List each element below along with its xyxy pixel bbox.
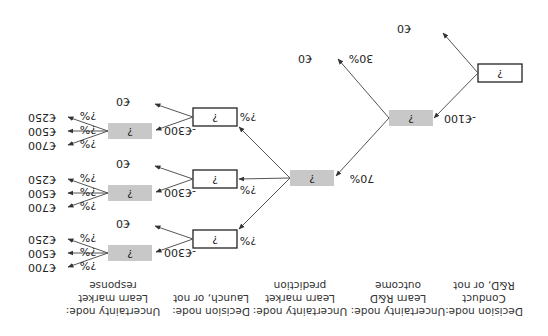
uncertainty-node-market-response-0-label: ? (127, 125, 133, 138)
edge-no-launch-1 (155, 166, 193, 179)
payoff-no-rd: €0 (397, 22, 411, 35)
payoff-response-2-2: €700 (28, 261, 56, 274)
prob-rd-success: 70% (350, 172, 374, 185)
payoff-response-2-0: €250 (28, 233, 56, 246)
uncertainty-node-market-response-2-label: ? (127, 247, 133, 260)
payoff-response-0-1: €500 (28, 125, 56, 138)
decision-node-conduct-rd-label: ? (497, 67, 503, 80)
column-header-2-line-0: Uncertainty node: (253, 306, 347, 318)
edge-rd-success (336, 118, 389, 176)
payoff-response-0-0: €250 (28, 111, 56, 124)
decision-node-launch-1-label: ? (212, 173, 218, 186)
column-header-1-line-0: Uncertainty node: (351, 306, 445, 318)
column-header-0-line-0: Decision node: (445, 306, 523, 318)
prob-response-1-2: ?% (80, 199, 96, 212)
decision-tree: ?€0-€100?30%€070%??%?€0-€300??%€250?%€50… (0, 0, 548, 336)
uncertainty-node-rd-outcome-label: ? (408, 112, 414, 125)
prob-response-1-0: ?% (80, 171, 96, 184)
column-header-3-line-1: Launch, or not (173, 293, 249, 305)
uncertainty-node-market-response-1-label: ? (127, 187, 133, 200)
column-header-1-line-1: Learn R&D (370, 293, 426, 305)
payoff-no-launch-1: €0 (116, 157, 130, 170)
payoff-no-launch-0: €0 (116, 95, 130, 108)
column-header-1-line-2: outcome (375, 280, 421, 292)
edge-no-rd (443, 33, 478, 73)
prob-prediction-1: ?% (240, 183, 256, 196)
cost-launch-2: -€300 (164, 246, 196, 259)
edge-rd (434, 73, 478, 118)
column-header-0-line-1: Conduct (462, 293, 506, 305)
column-header-4-line-0: Uncertainty node: (66, 306, 160, 318)
prob-prediction-2: ?% (240, 234, 256, 247)
decision-node-launch-2-label: ? (212, 233, 218, 246)
payoff-response-0-2: €700 (28, 139, 56, 152)
payoff-response-1-1: €500 (28, 187, 56, 200)
edge-prediction-1 (239, 178, 290, 179)
prob-response-0-0: ?% (80, 109, 96, 122)
decision-node-launch-0-label: ? (212, 111, 218, 124)
prob-response-0-2: ?% (80, 137, 96, 150)
edge-prediction-0 (239, 127, 290, 178)
prob-response-2-2: ?% (80, 259, 96, 272)
column-header-2-line-1: Learn market (265, 293, 335, 305)
prob-response-1-1: ?% (80, 185, 96, 198)
edge-no-launch-2 (155, 226, 193, 239)
cost-launch-1: -€300 (164, 186, 196, 199)
uncertainty-node-market-prediction-label: ? (309, 172, 315, 185)
payoff-response-1-0: €250 (28, 173, 56, 186)
prob-response-2-0: ?% (80, 231, 96, 244)
payoff-response-1-2: €700 (28, 201, 56, 214)
payoff-response-2-1: €500 (28, 247, 56, 260)
edge-no-launch-0 (155, 104, 193, 117)
column-header-2-line-2: prediction (274, 280, 327, 292)
payoff-no-launch-2: €0 (116, 217, 130, 230)
prob-response-2-1: ?% (80, 245, 96, 258)
column-header-3-line-0: Decision node: (172, 306, 250, 318)
payoff-rd-fail: €0 (298, 52, 312, 65)
prob-prediction-0: ?% (240, 110, 256, 123)
prob-response-0-1: ?% (80, 123, 96, 136)
column-header-0-line-2: R&D, or not (453, 280, 515, 292)
cost-rd: -€100 (444, 112, 476, 125)
prob-rd-fail: 30% (349, 52, 373, 65)
column-header-4-line-1: Learn market (78, 293, 148, 305)
edge-rd-fail (338, 59, 389, 118)
cost-launch-0: -€300 (164, 124, 196, 137)
column-header-4-line-2: response (89, 280, 137, 292)
